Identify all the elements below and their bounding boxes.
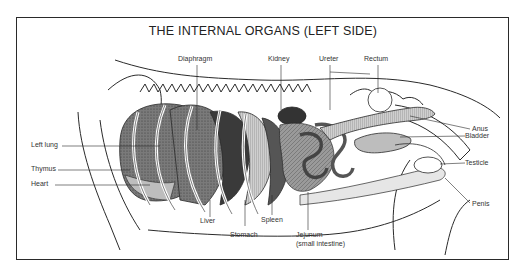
thorax (120, 104, 289, 214)
label-liver: Liver (200, 217, 215, 225)
label-ureter: Ureter (319, 55, 338, 63)
label-left-lung: Left lung (31, 141, 58, 149)
kidney-shape (278, 107, 306, 125)
label-thymus: Thymus (31, 165, 56, 173)
label-jejunum-note: (small intestine) (296, 240, 345, 248)
label-heart: Heart (31, 180, 48, 188)
label-stomach: Stomach (230, 231, 258, 239)
label-diaphragm: Diaphragm (178, 55, 212, 63)
abdomen (278, 88, 445, 205)
label-testicle: Testicle (465, 159, 488, 167)
label-spleen: Spleen (261, 216, 283, 224)
label-penis: Penis (472, 200, 490, 208)
testicle-shape (414, 157, 442, 173)
anatomy-illustration (0, 0, 526, 275)
bladder-shape (355, 133, 411, 153)
label-rectum: Rectum (364, 55, 388, 63)
label-jejunum: Jejunum (296, 231, 322, 239)
label-kidney: Kidney (268, 55, 289, 63)
label-bladder: Bladder (465, 132, 489, 140)
